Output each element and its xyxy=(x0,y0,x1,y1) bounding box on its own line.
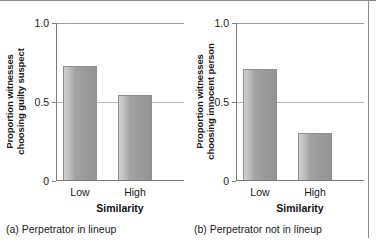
chart-panel-b: Proportion witnesses choosing innocent p… xyxy=(188,1,376,246)
chart-panel-a: Proportion witnesses choosing guilty sus… xyxy=(0,1,188,246)
y-tick-mark-0 xyxy=(232,181,236,182)
x-tick-label-low: Low xyxy=(243,186,277,198)
y-tick-label-1-0: 1.0 xyxy=(34,17,49,29)
panel-caption-a: (a) Perpetrator in lineup xyxy=(6,223,116,235)
x-axis-title: Similarity xyxy=(56,202,184,214)
bar-high[interactable] xyxy=(298,133,332,180)
y-tick-label-0-5: 0.5 xyxy=(214,96,229,108)
y-axis-line xyxy=(236,23,237,181)
figure-container: Proportion witnesses choosing guilty sus… xyxy=(0,0,376,246)
y-axis-title: Proportion witnesses choosing guilty sus… xyxy=(2,14,28,189)
bar-low[interactable] xyxy=(243,69,277,180)
y-axis-line xyxy=(56,23,57,181)
y-tick-mark-1-0 xyxy=(232,23,236,24)
y-tick-mark-0 xyxy=(52,181,56,182)
y-tick-mark-0-5 xyxy=(232,102,236,103)
bar-high[interactable] xyxy=(118,95,152,180)
y-tick-label-0: 0 xyxy=(43,175,49,187)
plot-area-b: 1.0 0.5 0 Low High xyxy=(236,23,356,181)
plot-area-a: 1.0 0.5 0 Low High xyxy=(56,23,176,181)
y-tick-label-0-5: 0.5 xyxy=(34,96,49,108)
gridline-1-0 xyxy=(56,23,184,24)
bar-low[interactable] xyxy=(63,66,97,180)
y-tick-mark-1-0 xyxy=(52,23,56,24)
x-tick-label-low: Low xyxy=(63,186,97,198)
x-tick-label-high: High xyxy=(118,186,152,198)
panel-caption-b: (b) Perpetrator not in lineup xyxy=(194,223,322,235)
x-axis-line xyxy=(56,180,184,181)
x-axis-line xyxy=(236,180,364,181)
gridline-1-0 xyxy=(236,23,364,24)
x-tick-label-high: High xyxy=(298,186,332,198)
x-axis-title: Similarity xyxy=(236,202,364,214)
y-tick-label-0: 0 xyxy=(223,175,229,187)
y-tick-mark-0-5 xyxy=(52,102,56,103)
y-tick-label-1-0: 1.0 xyxy=(214,17,229,29)
